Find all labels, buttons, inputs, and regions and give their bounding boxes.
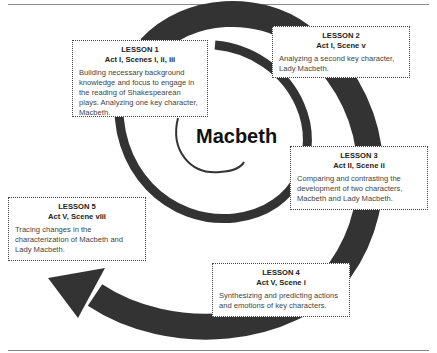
- lesson-1-box: LESSON 1 Act I, Scenes i, ii, iii Buildi…: [72, 40, 208, 117]
- lesson-scene: Act V, Scene viii: [15, 212, 139, 222]
- lesson-3-box: LESSON 3 Act II, Scene ii Comparing and …: [290, 146, 428, 210]
- lesson-label: LESSON 3: [297, 151, 421, 161]
- lesson-2-box: LESSON 2 Act I, Scene v Analyzing a seco…: [272, 26, 410, 78]
- lesson-scene: Act I, Scenes i, ii, iii: [79, 55, 201, 65]
- lesson-description: Comparing and contrasting the developmen…: [297, 174, 421, 204]
- lesson-description: Tracing changes in the characterization …: [15, 225, 139, 255]
- lesson-scene: Act V, Scene i: [219, 278, 343, 288]
- lesson-label: LESSON 2: [279, 31, 403, 41]
- lesson-scene: Act II, Scene ii: [297, 161, 421, 171]
- lesson-label: LESSON 5: [15, 202, 139, 212]
- lesson-label: LESSON 1: [79, 45, 201, 55]
- diagram-title: Macbeth: [196, 125, 277, 148]
- lesson-4-box: LESSON 4 Act V, Scene i Synthesizing and…: [212, 263, 350, 317]
- lesson-description: Building necessary background knowledge …: [79, 68, 201, 118]
- lesson-5-box: LESSON 5 Act V, Scene viii Tracing chang…: [8, 197, 146, 261]
- lesson-label: LESSON 4: [219, 268, 343, 278]
- lesson-description: Synthesizing and predicting actions and …: [219, 291, 343, 311]
- lesson-description: Analyzing a second key character, Lady M…: [279, 54, 403, 74]
- lesson-scene: Act I, Scene v: [279, 41, 403, 51]
